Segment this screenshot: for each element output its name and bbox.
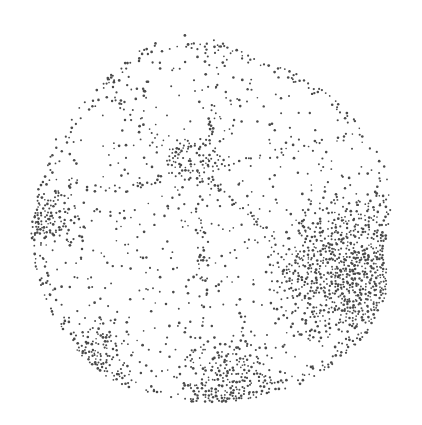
stipple-dots [30, 34, 391, 403]
stipple-drawing [0, 0, 422, 425]
foraminifera-illustration [0, 0, 422, 425]
